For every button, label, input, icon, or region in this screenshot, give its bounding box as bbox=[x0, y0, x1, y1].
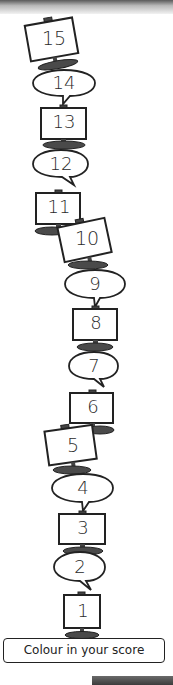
score-number: 15 bbox=[24, 27, 84, 49]
instruction-label: Colour in your score bbox=[3, 638, 165, 663]
score-3-monitor[interactable]: 3 bbox=[57, 510, 109, 556]
score-8-monitor[interactable]: 8 bbox=[71, 305, 121, 351]
score-10-monitor[interactable]: 10 bbox=[58, 218, 116, 270]
score-number: 1 bbox=[62, 600, 104, 621]
bottom-edge-bar bbox=[92, 676, 173, 685]
score-14-bubble[interactable]: 14 bbox=[32, 69, 96, 107]
top-edge-shadow bbox=[0, 0, 173, 14]
score-13-monitor[interactable]: 13 bbox=[38, 104, 90, 150]
score-4-bubble[interactable]: 4 bbox=[51, 473, 115, 513]
score-number: 8 bbox=[71, 312, 121, 333]
score-15-monitor[interactable]: 15 bbox=[24, 17, 84, 71]
instruction-text: Colour in your score bbox=[4, 643, 164, 657]
score-number: 11 bbox=[34, 196, 84, 217]
score-1-monitor[interactable]: 1 bbox=[62, 591, 104, 639]
score-2-bubble[interactable]: 2 bbox=[53, 551, 107, 593]
score-number: 10 bbox=[58, 227, 116, 249]
score-number: 4 bbox=[51, 477, 115, 498]
score-5-monitor[interactable]: 5 bbox=[44, 424, 102, 476]
score-number: 7 bbox=[68, 355, 120, 376]
score-number: 6 bbox=[68, 396, 118, 417]
score-number: 9 bbox=[64, 273, 126, 294]
score-number: 2 bbox=[53, 556, 107, 577]
score-number: 3 bbox=[57, 517, 109, 538]
score-12-bubble[interactable]: 12 bbox=[32, 149, 90, 187]
score-number: 12 bbox=[32, 153, 90, 174]
score-number: 5 bbox=[44, 434, 102, 456]
score-number: 13 bbox=[38, 111, 90, 132]
score-7-bubble[interactable]: 7 bbox=[68, 351, 120, 389]
score-number: 14 bbox=[32, 72, 96, 93]
score-9-bubble[interactable]: 9 bbox=[64, 269, 126, 309]
